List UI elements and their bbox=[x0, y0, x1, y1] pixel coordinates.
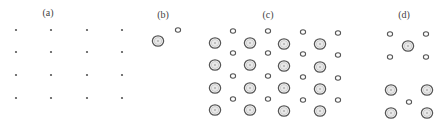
large-ring bbox=[244, 83, 255, 93]
small-ring bbox=[423, 55, 428, 59]
panel-b: (b) bbox=[152, 9, 180, 46]
lattice-site-dot bbox=[50, 51, 52, 53]
small-ring bbox=[230, 97, 235, 101]
lattice-site-dot bbox=[50, 97, 52, 99]
large-ring bbox=[314, 106, 325, 116]
small-ring bbox=[265, 51, 270, 55]
small-ring bbox=[300, 30, 305, 34]
panel-label-b: (b) bbox=[157, 9, 169, 21]
small-ring bbox=[335, 53, 340, 57]
small-ring bbox=[265, 29, 270, 33]
panel-label-d: (d) bbox=[398, 9, 410, 21]
small-ring bbox=[387, 32, 392, 36]
small-ring bbox=[265, 97, 270, 101]
large-ring bbox=[385, 108, 396, 118]
lattice-site-dot bbox=[15, 74, 17, 76]
large-ring bbox=[314, 84, 325, 94]
small-ring bbox=[387, 55, 392, 59]
large-ring bbox=[209, 38, 220, 48]
small-ring bbox=[175, 28, 180, 32]
large-ring bbox=[385, 85, 396, 95]
lattice-site-dot bbox=[50, 74, 52, 76]
panel-d: (d) bbox=[385, 9, 432, 118]
small-ring bbox=[406, 100, 411, 104]
large-ring bbox=[244, 105, 255, 115]
large-ring bbox=[278, 106, 289, 116]
lattice-site-dot bbox=[15, 97, 17, 99]
large-ring bbox=[209, 60, 220, 70]
large-ring bbox=[421, 108, 432, 118]
lattice-site-dot bbox=[86, 74, 88, 76]
large-ring bbox=[209, 83, 220, 93]
lattice-site-dot bbox=[121, 97, 123, 99]
large-ring bbox=[278, 39, 289, 49]
lattice-site-dot bbox=[86, 29, 88, 31]
small-ring bbox=[300, 98, 305, 102]
panel-label-c: (c) bbox=[262, 9, 273, 21]
lattice-site-dot bbox=[15, 51, 17, 53]
small-ring bbox=[230, 29, 235, 33]
lattice-site-dot bbox=[121, 51, 123, 53]
large-ring bbox=[278, 83, 289, 93]
lattice-site-dot bbox=[50, 29, 52, 31]
large-ring bbox=[244, 60, 255, 70]
small-ring bbox=[230, 51, 235, 55]
lattice-site-dot bbox=[121, 74, 123, 76]
small-ring bbox=[230, 74, 235, 78]
panel-label-a: (a) bbox=[42, 7, 53, 19]
small-ring bbox=[265, 74, 270, 78]
large-ring bbox=[314, 62, 325, 72]
lattice-figure: (a)(b)(c)(d) bbox=[0, 0, 443, 127]
large-ring bbox=[402, 41, 413, 51]
panel-c: (c) bbox=[209, 9, 340, 116]
lattice-site-dot bbox=[86, 51, 88, 53]
panel-a: (a) bbox=[15, 7, 123, 99]
small-ring bbox=[300, 75, 305, 79]
small-ring bbox=[423, 32, 428, 36]
large-ring bbox=[278, 61, 289, 71]
large-ring bbox=[244, 38, 255, 48]
large-ring bbox=[314, 39, 325, 49]
large-ring bbox=[152, 36, 163, 46]
large-ring bbox=[421, 85, 432, 95]
lattice-site-dot bbox=[121, 29, 123, 31]
small-ring bbox=[335, 76, 340, 80]
large-ring bbox=[209, 105, 220, 115]
small-ring bbox=[300, 52, 305, 56]
lattice-site-dot bbox=[15, 29, 17, 31]
small-ring bbox=[335, 98, 340, 102]
small-ring bbox=[335, 31, 340, 35]
lattice-site-dot bbox=[86, 97, 88, 99]
